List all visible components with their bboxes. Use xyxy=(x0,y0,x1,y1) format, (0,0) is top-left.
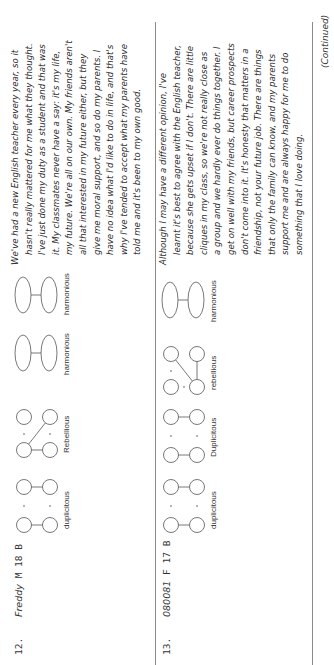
diagram-label: harmonious xyxy=(62,333,71,375)
row-number: 12. xyxy=(13,638,24,655)
participant-sex: M xyxy=(13,573,24,579)
participant-age: 18 xyxy=(13,555,24,566)
duplicitous-diagram-icon xyxy=(10,475,60,535)
relation-diagram-duplicitous xyxy=(10,475,60,535)
statement-line: We've had a new English teacher every ye… xyxy=(9,33,23,265)
participant-name: Freddy xyxy=(13,584,24,617)
row-number: 13. xyxy=(161,638,172,655)
statement-line: have no idea what I'd like to do in life… xyxy=(104,33,118,265)
statement-line: cliques in my class, so we're not really… xyxy=(198,33,212,265)
statement-line: give me moral support, and so do my pare… xyxy=(91,33,105,265)
statement-line: friendship, not your future job. There a… xyxy=(252,33,266,265)
rebellious-diagram-icon xyxy=(157,337,207,397)
statement-line: my future. We're all on our own. My frie… xyxy=(63,33,77,265)
statement-line: learnt it's best to agree with the Engli… xyxy=(171,33,185,265)
statement-line: why I've tended to accept what my parent… xyxy=(118,33,132,265)
row-divider xyxy=(155,22,156,665)
duplicitous-diagram-icon xyxy=(157,475,207,535)
rebellious-diagram-icon xyxy=(10,400,60,460)
diagram-label: Duplicitous xyxy=(209,418,218,457)
participant-group: B xyxy=(13,544,24,550)
participant-info: 080081 F 17 B xyxy=(161,541,172,617)
statement-line: because she gets upset if I don't. There… xyxy=(184,33,198,265)
diagram-label: harmonious xyxy=(62,273,71,315)
diagram-label: Rebellious xyxy=(62,416,71,453)
participant-sex: F xyxy=(161,569,172,575)
statement-line: all that interested in my future either,… xyxy=(77,33,91,265)
harmonious-diagram-icon xyxy=(8,265,60,325)
statement-line: a group and we hardly ever do things tog… xyxy=(211,33,225,265)
harmonious-diagram-icon xyxy=(155,270,207,330)
statement-line: it. My classmates never have a say: it's… xyxy=(50,33,64,265)
duplicitous-diagram-icon xyxy=(157,405,207,465)
relation-diagram-harmonious xyxy=(8,265,60,325)
statement-line: something that I love doing. xyxy=(293,33,307,265)
table-bottom-rule xyxy=(312,22,313,665)
diagram-label: duplicitous xyxy=(209,491,218,529)
statement-line: I've just done my duty as a student and … xyxy=(36,33,50,265)
statement-line: Although I may have a different opinion,… xyxy=(157,33,171,265)
participant-info: Freddy M 18 B xyxy=(13,544,24,617)
statement-line: told me and it's been to my own good. xyxy=(131,33,145,265)
participant-age: 17 xyxy=(161,552,172,563)
statement-line: support me and are always happy for me t… xyxy=(279,33,293,265)
statement-line: get on well with my friends, but career … xyxy=(225,33,239,265)
statement-line: that only the family can know, and my pa… xyxy=(266,33,280,265)
continued-note: (Continued) xyxy=(320,15,330,68)
relation-diagram-harmonious xyxy=(8,323,60,383)
relation-diagram-duplicitous xyxy=(157,405,207,465)
statement-line: don't come into it. It's honesty that ma… xyxy=(239,33,253,265)
statement-line: hasn't really mattered for me what they … xyxy=(23,33,37,265)
participant-name: 080081 xyxy=(161,581,172,617)
diagram-label: rebellious xyxy=(209,356,218,390)
participant-statement: We've had a new English teacher every ye… xyxy=(9,33,145,265)
relation-diagram-duplicitous xyxy=(157,475,207,535)
participant-group: B xyxy=(161,541,172,547)
diagram-label: duplicitous xyxy=(62,491,71,529)
relation-diagram-rebellious xyxy=(157,337,207,397)
relation-diagram-rebellious xyxy=(10,400,60,460)
table-page: 12. Freddy M 18 B duplicitous xyxy=(0,0,334,665)
relation-diagram-harmonious xyxy=(155,270,207,330)
harmonious-diagram-icon xyxy=(8,323,60,383)
diagram-label: harmonious xyxy=(209,280,218,322)
participant-statement: Although I may have a different opinion,… xyxy=(157,33,307,265)
